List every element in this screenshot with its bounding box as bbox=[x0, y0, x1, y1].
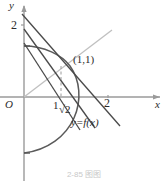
point-label: (1,1) bbox=[73, 54, 94, 65]
origin-label: O bbox=[5, 99, 13, 110]
y-axis-label: y bbox=[9, 0, 14, 11]
figure-canvas bbox=[0, 0, 168, 181]
y-tick-label-2: 2 bbox=[11, 19, 17, 31]
x-tick-label-1: 1 bbox=[53, 100, 59, 111]
x-axis-label: x bbox=[155, 99, 160, 110]
x-tick-label-sqrt2: √2 bbox=[59, 103, 71, 115]
curve-label: y=f(x) bbox=[71, 117, 99, 128]
figure-container: y x O 2 1 √2 2 (1,1) y=f(x) 2-85 图图 bbox=[0, 0, 168, 181]
figure-caption: 2-85 图图 bbox=[0, 168, 168, 179]
y-axis-arrow bbox=[21, 5, 26, 12]
sqrt-radicand: 2 bbox=[65, 103, 71, 115]
x-tick-label-2: 2 bbox=[104, 97, 110, 109]
